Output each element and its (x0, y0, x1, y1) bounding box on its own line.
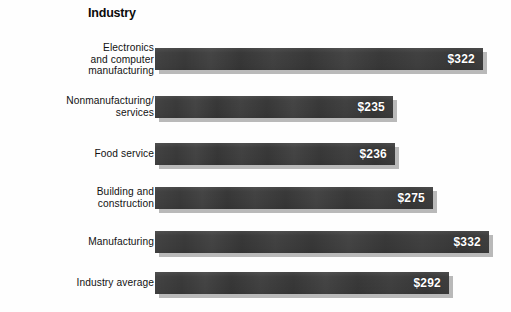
bar: $332 (155, 231, 489, 253)
bar-row: Industry average$292 (0, 270, 511, 296)
bar-value-label: $292 (414, 272, 442, 294)
bar-chart: Industry Electronics and computer manufa… (0, 0, 511, 312)
bar-category-label: Industry average (0, 277, 154, 289)
bar-value-label: $235 (358, 96, 386, 118)
bar-category-label: Building and construction (0, 186, 154, 209)
bar: $235 (155, 96, 393, 118)
bar-row: Building and construction$275 (0, 185, 511, 211)
bar: $322 (155, 48, 483, 70)
chart-title: Industry (88, 6, 136, 20)
bar-category-label: Manufacturing (0, 236, 154, 248)
bar-fill: $292 (155, 272, 449, 294)
bar-row: Electronics and computer manufacturing$3… (0, 46, 511, 72)
bar-category-label: Food service (0, 148, 154, 160)
bar-fill: $322 (155, 48, 483, 70)
bar-value-label: $332 (454, 231, 482, 253)
bar: $275 (155, 187, 433, 209)
bar-fill: $236 (155, 143, 395, 165)
bar: $236 (155, 143, 395, 165)
bar-value-label: $236 (360, 143, 388, 165)
bar-row: Manufacturing$332 (0, 229, 511, 255)
plot-area: Electronics and computer manufacturing$3… (0, 38, 511, 306)
bar-value-label: $275 (398, 187, 426, 209)
bar-fill: $235 (155, 96, 393, 118)
bar-row: Nonmanufacturing/ services$235 (0, 94, 511, 120)
bar-fill: $275 (155, 187, 433, 209)
bar: $292 (155, 272, 449, 294)
bar-fill: $332 (155, 231, 489, 253)
bar-row: Food service$236 (0, 141, 511, 167)
bar-value-label: $322 (448, 48, 476, 70)
bar-category-label: Electronics and computer manufacturing (0, 42, 154, 77)
bar-category-label: Nonmanufacturing/ services (0, 95, 154, 118)
